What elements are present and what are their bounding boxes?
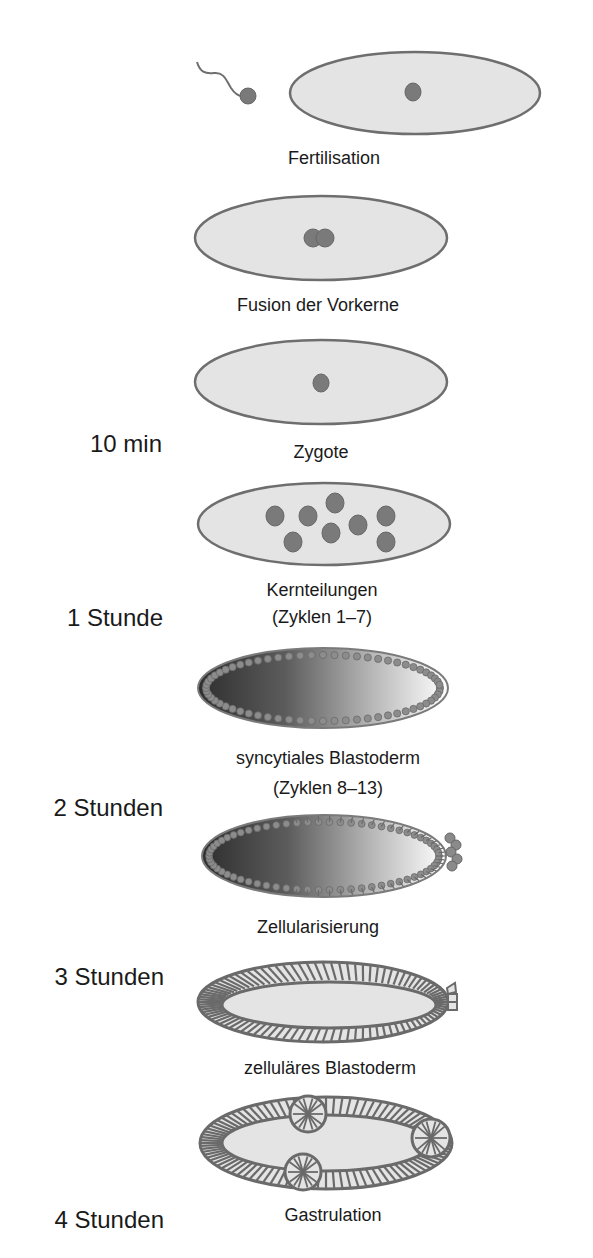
nucleus-icon [313, 374, 329, 392]
stage-label-fertilisation: Fertilisation [288, 148, 380, 168]
egg-icon [202, 815, 446, 897]
stage-syncytial-blastoderm: syncytiales Blastoderm (Zyklen 8–13) [198, 648, 448, 798]
stage-fusion: Fusion der Vorkerne [195, 196, 447, 315]
stage-label-gastrulation: Gastrulation [284, 1205, 381, 1225]
stage-fertilisation: Fertilisation [197, 52, 540, 168]
egg-icon [198, 483, 450, 565]
stage-gastrulation: Gastrulation [200, 1096, 452, 1225]
pole-cells-icon [445, 833, 462, 871]
stage-label-fusion: Fusion der Vorkerne [237, 295, 399, 315]
pole-cells-icon [447, 983, 457, 1010]
time-label-1h: 1 Stunde [67, 604, 163, 631]
nucleus-icon [405, 83, 421, 101]
pronucleus-icon [316, 229, 334, 247]
egg-icon [198, 648, 448, 728]
stage-label-cellular-blastoderm: zelluläres Blastoderm [244, 1058, 416, 1078]
stage-sublabel-nuclear-divisions: (Zyklen 1–7) [272, 607, 372, 627]
stage-cellularization: Zellularisierung [202, 815, 462, 937]
stage-label-zygote: Zygote [293, 442, 348, 462]
time-label-10min: 10 min [90, 430, 162, 457]
time-label-3h: 3 Stunden [55, 963, 164, 990]
drosophila-development-diagram: Fertilisation Fusion der Vorkerne Zygote… [0, 0, 593, 1258]
stage-sublabel-syncytial-blastoderm: (Zyklen 8–13) [273, 778, 383, 798]
yolk-icon [222, 1115, 430, 1171]
time-label-4h: 4 Stunden [55, 1206, 164, 1233]
stage-zygote: Zygote [195, 340, 447, 462]
stage-label-cellularization: Zellularisierung [257, 917, 379, 937]
time-label-2h: 2 Stunden [54, 794, 163, 821]
sperm-icon [197, 62, 256, 104]
stage-cellular-blastoderm: zelluläres Blastoderm [198, 962, 457, 1078]
stage-nuclear-divisions: Kernteilungen (Zyklen 1–7) [198, 483, 450, 627]
stage-label-syncytial-blastoderm: syncytiales Blastoderm [236, 748, 420, 768]
stage-label-nuclear-divisions: Kernteilungen [266, 580, 377, 600]
time-axis: 10 min 1 Stunde 2 Stunden 3 Stunden 4 St… [54, 430, 164, 1233]
yolk-icon [222, 982, 436, 1028]
